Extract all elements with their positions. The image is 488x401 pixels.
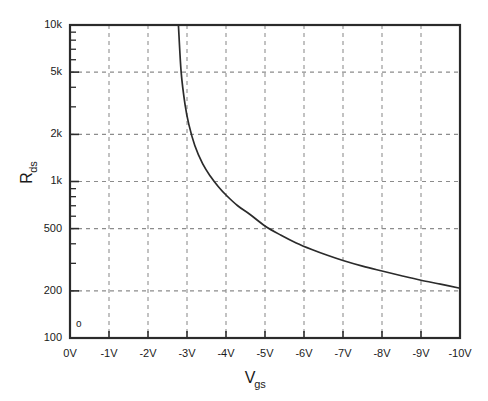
y-tick-label: 2k [50, 127, 62, 139]
x-tick-label: 0V [63, 347, 77, 359]
x-tick-label: -6V [295, 347, 313, 359]
y-tick-label: 200 [44, 284, 62, 296]
x-tick-label: -5V [256, 347, 274, 359]
chart-container: 10k5k2k1k500200100 0V-1V-2V-3V-4V-5V-6V-… [0, 0, 488, 401]
x-tick-label: -7V [334, 347, 352, 359]
x-tick-label: -8V [373, 347, 391, 359]
y-tick-label: 5k [50, 65, 62, 77]
x-tick-label: -2V [139, 347, 157, 359]
grid-layer [70, 25, 460, 338]
x-tick-label: -1V [100, 347, 118, 359]
y-tick-label: 10k [44, 18, 62, 30]
y-axis-title-base: R [18, 172, 35, 184]
y-tick-label: 500 [44, 222, 62, 234]
x-tick-label: -4V [217, 347, 235, 359]
x-axis-title-subscript: gs [254, 378, 266, 390]
corner-origin-mark: o [76, 318, 82, 329]
x-tick-label: -9V [412, 347, 430, 359]
rds-vgs-log-chart: 10k5k2k1k500200100 0V-1V-2V-3V-4V-5V-6V-… [0, 0, 488, 401]
x-tick-label: -10V [448, 347, 472, 359]
y-tick-label: 1k [50, 174, 62, 186]
y-tick-label: 100 [44, 331, 62, 343]
y-axis-title-subscript: ds [27, 161, 39, 173]
x-tick-label: -3V [178, 347, 196, 359]
